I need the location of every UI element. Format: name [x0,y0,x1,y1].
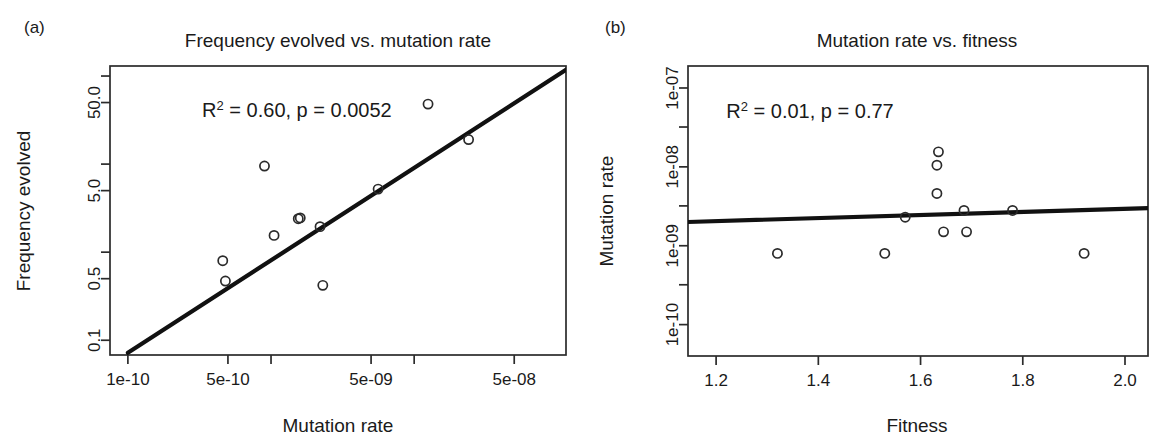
data-point [221,276,230,285]
stats-annotation: R2 = 0.01, p = 0.77 [726,99,893,122]
panel-a: 1e-105e-105e-095e-080.10.55.050.0R2 = 0.… [0,0,588,447]
panel-b-svg: 1.21.41.61.82.01e-101e-091e-081e-07R2 = … [587,0,1175,447]
x-tick-label: 1.8 [1011,371,1035,390]
y-tick-label: 0.5 [85,267,104,291]
x-tick-label: 1.2 [704,371,728,390]
y-tick-label: 1e-09 [663,224,682,267]
x-tick-label: 2.0 [1113,371,1137,390]
y-tick-label: 0.1 [85,328,104,352]
data-point [1080,249,1089,258]
x-tick-label: 1.4 [807,371,831,390]
panel-b-ylabel: Mutation rate [596,156,617,267]
data-point [880,249,889,258]
x-tick-label: 5e-08 [492,370,535,389]
data-point [423,100,432,109]
x-tick-label: 1e-10 [106,370,149,389]
plot-content: R2 = 0.60, p = 0.0052 [128,70,566,353]
panel-b-tag: (b) [605,18,626,37]
data-point [932,189,941,198]
plot-content: R2 = 0.01, p = 0.77 [688,99,1148,258]
data-point [939,227,948,236]
panel-a-title: Frequency evolved vs. mutation rate [185,30,491,51]
data-point [932,161,941,170]
panel-a-tag: (a) [24,18,45,37]
y-tick-label: 1e-07 [663,66,682,109]
x-tick-label: 5e-10 [206,370,249,389]
data-point [269,231,278,240]
y-tick-label: 1e-08 [663,145,682,188]
y-tick-label: 5.0 [85,179,104,203]
y-tick-label: 50.0 [85,86,104,119]
data-point [934,147,943,156]
panel-b-title: Mutation rate vs. fitness [817,30,1018,51]
x-tick-label: 5e-09 [349,370,392,389]
regression-line [688,208,1148,222]
data-point [962,227,971,236]
panel-a-ylabel: Frequency evolved [13,131,34,292]
data-point [218,256,227,265]
stats-annotation: R2 = 0.60, p = 0.0052 [202,98,392,121]
x-tick-label: 1.6 [909,371,933,390]
panel-b-chart: 1.21.41.61.82.01e-101e-091e-081e-07R2 = … [663,66,1148,390]
data-point [260,161,269,170]
panel-a-xlabel: Mutation rate [283,415,394,436]
y-tick-label: 1e-10 [663,303,682,346]
data-point [773,249,782,258]
panel-a-chart: 1e-105e-105e-095e-080.10.55.050.0R2 = 0.… [85,66,566,389]
data-point [464,135,473,144]
panel-b: 1.21.41.61.82.01e-101e-091e-081e-07R2 = … [587,0,1175,447]
panel-a-svg: 1e-105e-105e-095e-080.10.55.050.0R2 = 0.… [0,0,588,447]
panel-b-xlabel: Fitness [886,415,947,436]
figure-container: 1e-105e-105e-095e-080.10.55.050.0R2 = 0.… [0,0,1175,447]
data-point [318,281,327,290]
